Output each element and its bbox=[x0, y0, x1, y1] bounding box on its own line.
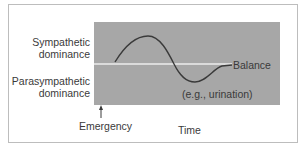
label-line: dominance bbox=[4, 87, 90, 99]
label-line: Parasympathetic bbox=[4, 75, 90, 87]
urination-annotation: (e.g., urination) bbox=[182, 88, 253, 100]
arrow-head-icon bbox=[99, 105, 103, 110]
autonomic-response-curve bbox=[115, 36, 232, 82]
parasympathetic-dominance-label: Parasympathetic dominance bbox=[4, 75, 90, 99]
balance-label: Balance bbox=[233, 59, 271, 71]
emergency-label: Emergency bbox=[79, 120, 132, 132]
label-line: Sympathetic bbox=[10, 36, 90, 48]
time-axis-label: Time bbox=[178, 124, 201, 136]
label-line: dominance bbox=[10, 48, 90, 60]
sympathetic-dominance-label: Sympathetic dominance bbox=[10, 36, 90, 60]
